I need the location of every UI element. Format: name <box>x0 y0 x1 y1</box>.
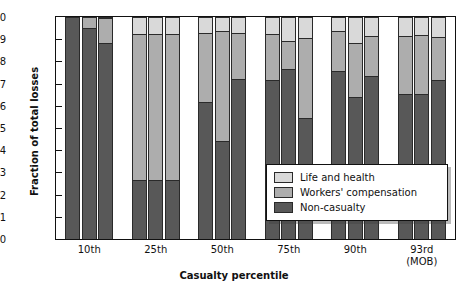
stacked-bar <box>198 17 213 239</box>
bar-segment-life-and-health <box>398 17 413 36</box>
y-axis-tick-label: 1.0 <box>0 12 6 23</box>
bar-segment-life-and-health <box>331 17 346 31</box>
bar-segment-workers-compensation <box>148 34 163 181</box>
bar-group <box>189 17 256 239</box>
bar-segment-workers-compensation <box>98 18 113 42</box>
bar-segment-workers-compensation <box>198 33 213 103</box>
bar-segment-life-and-health <box>231 17 246 33</box>
bar-segment-non-casualty <box>132 180 147 239</box>
bar-segment-workers-compensation <box>331 31 346 71</box>
bar-segment-life-and-health <box>198 17 213 33</box>
bar-segment-workers-compensation <box>348 43 363 97</box>
y-axis-tick-label: 0.4 <box>0 145 6 156</box>
bar-segment-life-and-health <box>414 17 429 35</box>
y-axis-title: Fraction of total losses <box>29 37 40 227</box>
bar-segment-non-casualty <box>215 141 230 239</box>
bar-segment-non-casualty <box>165 180 180 239</box>
stacked-bar <box>148 17 163 239</box>
bar-group <box>123 17 190 239</box>
bar-segment-workers-compensation <box>265 34 280 81</box>
stacked-bar-chart: Fraction of total losses 1.00.90.80.70.6… <box>0 0 468 294</box>
bar-segment-workers-compensation <box>431 37 446 80</box>
bar-segment-workers-compensation <box>298 38 313 118</box>
stacked-bar <box>215 17 230 239</box>
bar-segment-non-casualty <box>198 102 213 239</box>
bar-segment-non-casualty <box>98 43 113 239</box>
stacked-bar <box>65 17 80 239</box>
bar-segment-non-casualty <box>148 180 163 239</box>
y-axis-tick-label: 0.7 <box>0 78 6 89</box>
y-axis-tick-label: 0.8 <box>0 56 6 67</box>
bar-segment-life-and-health <box>165 17 180 34</box>
bar-segment-workers-compensation <box>82 17 97 28</box>
y-axis-tick-label: 0.2 <box>0 189 6 200</box>
stacked-bar <box>231 17 246 239</box>
legend-swatch-workers-compensation <box>274 187 293 198</box>
y-axis-tick-label: 0.3 <box>0 167 6 178</box>
bar-group <box>56 17 123 239</box>
legend-label-workers-compensation: Workers' compensation <box>300 187 417 198</box>
y-axis-tick-label: 0.6 <box>0 100 6 111</box>
bar-segment-life-and-health <box>148 17 163 34</box>
legend-item-workers-compensation: Workers' compensation <box>274 185 441 200</box>
x-axis-tick-label: 93rd (MOB) <box>382 244 462 268</box>
bar-segment-non-casualty <box>231 79 246 239</box>
bar-segment-workers-compensation <box>414 35 429 94</box>
legend-label-life-and-health: Life and health <box>300 172 375 183</box>
y-axis-tick-label: 0.5 <box>0 123 6 134</box>
y-axis-tick-label: 0.9 <box>0 34 6 45</box>
y-axis-tick-label: 0.1 <box>0 211 6 222</box>
bar-segment-life-and-health <box>364 17 379 36</box>
legend-item-life-and-health: Life and health <box>274 170 441 185</box>
bar-segment-workers-compensation <box>132 34 147 181</box>
bar-segment-life-and-health <box>298 17 313 38</box>
legend-swatch-non-casualty <box>274 202 293 213</box>
chart-legend: Life and health Workers' compensation No… <box>266 164 448 221</box>
bar-segment-workers-compensation <box>231 33 246 80</box>
bar-segment-workers-compensation <box>281 41 296 69</box>
bar-segment-life-and-health <box>132 17 147 34</box>
stacked-bar <box>132 17 147 239</box>
stacked-bar <box>82 17 97 239</box>
x-axis-title: Casualty percentile <box>0 270 468 281</box>
bar-segment-workers-compensation <box>215 31 230 141</box>
bar-segment-life-and-health <box>348 17 363 43</box>
legend-item-non-casualty: Non-casualty <box>274 200 441 215</box>
stacked-bar <box>98 17 113 239</box>
bar-segment-workers-compensation <box>398 36 413 94</box>
bar-segment-life-and-health <box>215 17 230 31</box>
legend-label-non-casualty: Non-casualty <box>300 202 365 213</box>
stacked-bar <box>165 17 180 239</box>
bar-segment-life-and-health <box>281 17 296 41</box>
bar-segment-workers-compensation <box>165 34 180 181</box>
bar-segment-life-and-health <box>265 17 280 34</box>
y-axis-tick-label: 0 <box>0 234 6 245</box>
bar-segment-non-casualty <box>65 17 80 239</box>
bar-segment-non-casualty <box>82 28 97 239</box>
bar-segment-workers-compensation <box>364 36 379 76</box>
bar-segment-life-and-health <box>431 17 446 37</box>
legend-swatch-life-and-health <box>274 172 293 183</box>
